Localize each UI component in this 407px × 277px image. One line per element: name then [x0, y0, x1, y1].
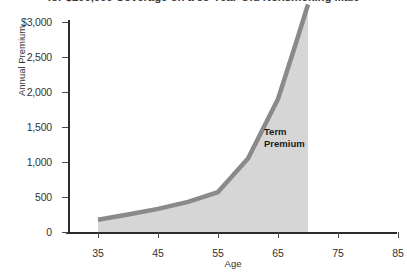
plot-area: $3,000 2,500 2,000 1,500 1,000 500 0 35 … — [68, 22, 398, 232]
chart-title: for $100,000 Coverage on a 35-Year-Old N… — [0, 0, 407, 3]
y-tick-label-500: 500 — [35, 191, 52, 203]
y-tick-label-1000: 1,000 — [27, 156, 52, 168]
y-axis-title: Annual Premium — [16, 26, 27, 96]
annotation-term-premium: Term Premium — [264, 126, 305, 150]
x-tick-35: 35 — [98, 232, 99, 238]
chart-root: for $100,000 Coverage on a 35-Year-Old N… — [0, 0, 407, 277]
y-tick-label-1500: 1,500 — [27, 121, 52, 133]
x-tick-45: 45 — [158, 232, 159, 238]
x-tick-75: 75 — [338, 232, 339, 238]
x-axis-line — [66, 232, 397, 234]
annotation-line-2: Premium — [264, 138, 305, 150]
term-premium-series — [68, 22, 398, 232]
x-axis-title: Age — [68, 258, 398, 269]
x-tick-65: 65 — [278, 232, 279, 238]
y-tick-label-2000: 2,000 — [27, 86, 52, 98]
y-tick-label-2500: 2,500 — [27, 51, 52, 63]
annotation-line-1: Term — [264, 126, 305, 138]
y-tick-label-0: 0 — [46, 226, 52, 238]
x-tick-85: 85 — [398, 232, 399, 238]
x-tick-55: 55 — [218, 232, 219, 238]
y-tick-0: 0 — [62, 232, 68, 233]
